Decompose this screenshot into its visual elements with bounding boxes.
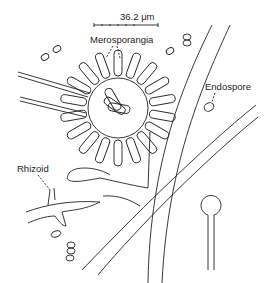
label-merosporangia: Merosporangia bbox=[90, 34, 154, 45]
merosporangia-diagram: 36.2 μm Merosporangia Endospore Rhizoid bbox=[0, 0, 269, 283]
label-endospore: Endospore bbox=[205, 81, 251, 92]
loose-spores bbox=[40, 34, 191, 261]
endospore-shape bbox=[203, 101, 215, 112]
merosporangia-ring bbox=[60, 50, 176, 166]
scale-bar-label: 36.2 μm bbox=[120, 11, 155, 22]
scale-bar: 36.2 μm bbox=[94, 11, 158, 27]
vesicle bbox=[88, 78, 148, 138]
label-rhizoid: Rhizoid bbox=[17, 163, 49, 174]
